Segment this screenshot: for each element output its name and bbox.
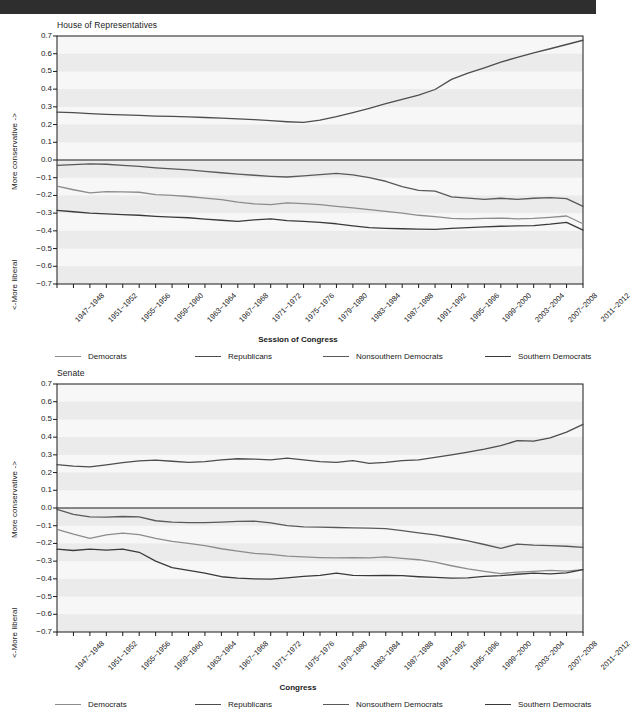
y-tick-label: 0.1 <box>28 485 52 494</box>
legend-swatch-icon <box>323 704 349 705</box>
legend-label: Nonsouthern Democrats <box>356 352 443 361</box>
legend-item-republicans: Republicans <box>195 700 272 709</box>
y-tick-label: 0.2 <box>28 468 52 477</box>
y-tick-label: −0.7 <box>28 627 52 636</box>
y-tick-label: 0.4 <box>28 84 52 93</box>
y-tick-label: 0.0 <box>28 503 52 512</box>
x-tick-label: 1967−1968 <box>237 639 270 672</box>
legend-label: Republicans <box>228 700 272 709</box>
x-tick-label: 1987−1988 <box>402 639 435 672</box>
y-tick-label: 0.5 <box>28 66 52 75</box>
legend-label: Democrats <box>88 700 127 709</box>
x-tick-label: 1963−1964 <box>205 639 238 672</box>
plot-area-house <box>0 20 596 290</box>
x-tick-label: 1951−1952 <box>106 639 139 672</box>
x-tick-label: 1979−1980 <box>336 291 369 324</box>
x-tick-label: 1979−1980 <box>336 639 369 672</box>
y-tick-label: 0.2 <box>28 120 52 129</box>
legend-label: Southern Democrats <box>518 352 591 361</box>
x-tick-label: 2003−2004 <box>533 291 566 324</box>
x-tick-label: 1947−1948 <box>73 639 106 672</box>
y-tick-label: 0.3 <box>28 450 52 459</box>
legend-item-southern-democrats: Southern Democrats <box>485 700 591 709</box>
legend-swatch-icon <box>323 356 349 357</box>
x-tick-label: 1947−1948 <box>73 291 106 324</box>
x-tick-label: 1991−1992 <box>435 639 468 672</box>
legend-swatch-icon <box>55 356 81 357</box>
legend-swatch-icon <box>195 704 221 705</box>
x-axis-label-senate: Congress <box>0 683 596 692</box>
legend-swatch-icon <box>485 356 511 357</box>
y-tick-label: −0.3 <box>28 208 52 217</box>
y-tick-label: −0.7 <box>28 279 52 288</box>
legend-house: DemocratsRepublicansNonsouthern Democrat… <box>55 350 585 362</box>
legend-item-republicans: Republicans <box>195 352 272 361</box>
x-axis-label-house: Session of Congress <box>0 335 596 344</box>
x-tick-label: 1967−1968 <box>237 291 270 324</box>
x-tick-label: 1999−2000 <box>500 639 533 672</box>
y-tick-label: −0.1 <box>28 521 52 530</box>
legend-swatch-icon <box>55 704 81 705</box>
y-tick-label: 0.4 <box>28 432 52 441</box>
x-tick-label: 2007−2008 <box>566 639 599 672</box>
y-tick-label: 0.6 <box>28 49 52 58</box>
legend-label: Southern Democrats <box>518 700 591 709</box>
legend-label: Nonsouthern Democrats <box>356 700 443 709</box>
top-black-bar <box>0 0 596 14</box>
x-tick-label: 2007−2008 <box>566 291 599 324</box>
y-tick-label: −0.6 <box>28 261 52 270</box>
x-tick-label: 1999−2000 <box>500 291 533 324</box>
plot-area-senate <box>0 368 596 638</box>
x-tick-label: 1983−1984 <box>369 291 402 324</box>
x-tick-label: 1975−1976 <box>303 639 336 672</box>
x-tick-label: 2011−2012 <box>599 639 632 672</box>
x-tick-label: 2003−2004 <box>533 639 566 672</box>
legend-item-democrats: Democrats <box>55 700 127 709</box>
legend-item-nonsouthern-democrats: Nonsouthern Democrats <box>323 700 443 709</box>
x-tick-label: 1975−1976 <box>303 291 336 324</box>
y-tick-label: 0.0 <box>28 155 52 164</box>
y-tick-label: −0.2 <box>28 190 52 199</box>
y-tick-label: 0.3 <box>28 102 52 111</box>
y-tick-label: 0.7 <box>28 31 52 40</box>
x-tick-label: 1987−1988 <box>402 291 435 324</box>
legend-swatch-icon <box>195 356 221 357</box>
x-tick-label: 1995−1996 <box>468 291 501 324</box>
x-tick-label: 1991−1992 <box>435 291 468 324</box>
legend-item-democrats: Democrats <box>55 352 127 361</box>
legend-swatch-icon <box>485 704 511 705</box>
y-tick-label: −0.4 <box>28 574 52 583</box>
y-tick-label: −0.1 <box>28 173 52 182</box>
x-tick-label: 1955−1956 <box>139 639 172 672</box>
x-tick-label: 2011−2012 <box>599 291 632 324</box>
x-tick-label: 1951−1952 <box>106 291 139 324</box>
x-tick-label: 1959−1960 <box>172 639 205 672</box>
y-tick-label: 0.5 <box>28 414 52 423</box>
x-tick-label: 1983−1984 <box>369 639 402 672</box>
x-tick-label: 1995−1996 <box>468 639 501 672</box>
legend-label: Democrats <box>88 352 127 361</box>
y-tick-label: −0.3 <box>28 556 52 565</box>
y-tick-label: −0.5 <box>28 592 52 601</box>
y-tick-label: 0.7 <box>28 379 52 388</box>
y-tick-label: 0.1 <box>28 137 52 146</box>
y-tick-label: −0.5 <box>28 244 52 253</box>
legend-label: Republicans <box>228 352 272 361</box>
x-tick-label: 1955−1956 <box>139 291 172 324</box>
x-tick-label: 1971−1972 <box>270 639 303 672</box>
y-tick-label: −0.4 <box>28 226 52 235</box>
x-tick-label: 1959−1960 <box>172 291 205 324</box>
legend-senate: DemocratsRepublicansNonsouthern Democrat… <box>55 698 585 710</box>
y-tick-label: −0.2 <box>28 538 52 547</box>
y-tick-label: 0.6 <box>28 397 52 406</box>
x-tick-label: 1963−1964 <box>205 291 238 324</box>
y-tick-label: −0.6 <box>28 609 52 618</box>
legend-item-southern-democrats: Southern Democrats <box>485 352 591 361</box>
x-tick-label: 1971−1972 <box>270 291 303 324</box>
legend-item-nonsouthern-democrats: Nonsouthern Democrats <box>323 352 443 361</box>
